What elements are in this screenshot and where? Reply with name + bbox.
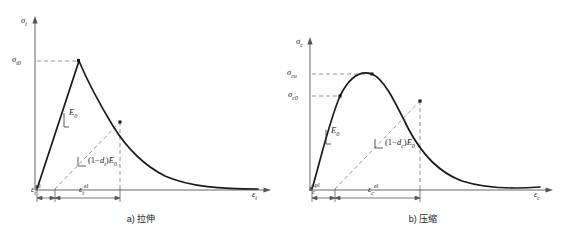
compression-data-markers bbox=[339, 73, 422, 103]
compression-caption: b) 压缩 bbox=[282, 212, 564, 225]
tension-axes bbox=[32, 16, 271, 193]
compression-curve bbox=[312, 73, 540, 189]
tension-x-axis-label: εt bbox=[252, 190, 257, 201]
tension-caption: a) 拉伸 bbox=[0, 212, 282, 225]
tension-curve bbox=[37, 61, 258, 189]
compression-span-bars bbox=[312, 185, 420, 202]
tension-y-tick-label: σt0 bbox=[12, 55, 21, 66]
tension-y-axis-label: σt bbox=[21, 16, 27, 27]
panel-tension: σt σt0 E0 (1−dt)E0 ε̃tpl εtel εt a) 拉伸 bbox=[0, 0, 282, 238]
tension-guides bbox=[37, 61, 120, 189]
compression-slope-damaged-label: (1−dc)E0 bbox=[385, 138, 415, 149]
figure-concrete-damage-plasticity: σt σt0 E0 (1−dt)E0 ε̃tpl εtel εt a) 拉伸 bbox=[0, 0, 564, 238]
panel-compression: σc σcu σc0 E0 (1−dc)E0 ε̃cpl εcel εc b) … bbox=[282, 0, 564, 238]
compression-y-axis-label: σc bbox=[296, 37, 303, 48]
compression-x-axis-label: εc bbox=[534, 190, 540, 201]
tension-slope-initial-label: E0 bbox=[69, 108, 77, 119]
compression-y-tick-label-yield: σc0 bbox=[288, 90, 298, 101]
tension-data-markers bbox=[77, 59, 122, 124]
compression-x-span-label-elastic: εcel bbox=[368, 183, 378, 196]
compression-slope-initial-label: E0 bbox=[331, 126, 339, 137]
tension-x-span-label-elastic: εtel bbox=[79, 183, 88, 196]
compression-plot-svg bbox=[282, 0, 564, 238]
tension-x-span-label-plastic: ε̃tpl bbox=[31, 183, 41, 196]
compression-axes bbox=[307, 37, 553, 193]
tension-plot-svg bbox=[0, 0, 282, 238]
tension-slope-damaged-label: (1−dt)E0 bbox=[88, 156, 117, 167]
compression-y-tick-label-ultimate: σcu bbox=[287, 68, 297, 79]
compression-x-span-label-plastic: ε̃cpl bbox=[309, 182, 320, 195]
